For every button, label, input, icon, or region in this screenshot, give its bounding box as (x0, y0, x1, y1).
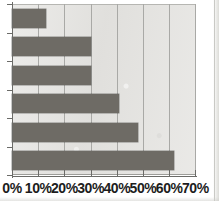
y-axis-tick (7, 118, 13, 119)
x-axis-tick (169, 170, 170, 177)
y-axis-tick (7, 147, 13, 148)
x-axis-tick (117, 170, 118, 177)
gridline-20pct (64, 4, 65, 175)
gridline-10pct (38, 4, 39, 175)
x-axis-tick-label: 20% (51, 179, 78, 198)
x-axis-tick-label: 0% (2, 179, 21, 198)
x-axis-tick-label: 30% (77, 179, 104, 198)
x-axis-tick-label: 60% (156, 179, 183, 198)
page-bottom-shadow (0, 197, 219, 201)
page-edge-line (214, 0, 215, 201)
y-axis-tick (7, 4, 13, 5)
x-axis-tick (143, 170, 144, 177)
y-axis-tick (7, 90, 13, 91)
bar (12, 9, 46, 28)
bar (12, 37, 91, 56)
x-axis-tick (64, 170, 65, 177)
y-axis-tick (7, 61, 13, 62)
bar (12, 94, 119, 113)
gridline-70pct (195, 4, 196, 175)
x-axis-tick-label: 10% (25, 179, 52, 198)
x-axis-tick (91, 170, 92, 177)
x-axis-tick-label: 40% (103, 179, 130, 198)
x-axis-tick-label: 50% (130, 179, 157, 198)
gridline-50pct (143, 4, 144, 175)
bar (12, 123, 138, 142)
x-axis-tick (38, 170, 39, 177)
gridline-30pct (91, 4, 92, 175)
plot-area (12, 4, 196, 175)
bar-chart: 0%10%20%30%40%50%60%70% (0, 0, 219, 201)
gridline-40pct (117, 4, 118, 175)
x-axis-tick (12, 170, 13, 177)
y-axis-tick (7, 33, 13, 34)
x-axis-tick-label: 70% (182, 179, 209, 198)
bar (12, 66, 91, 85)
bar (12, 151, 174, 170)
gridline-60pct (169, 4, 170, 175)
x-axis-tick (195, 170, 196, 177)
